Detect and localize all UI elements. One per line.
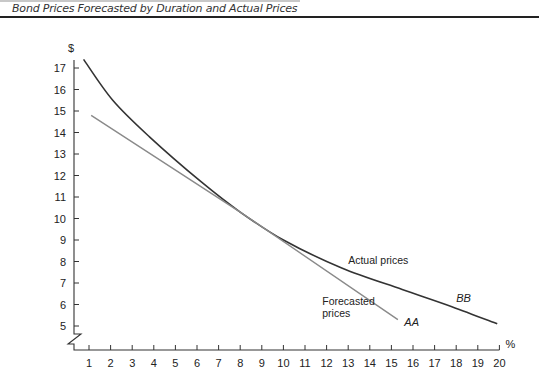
x-tick-label: 15	[385, 357, 397, 369]
y-tick-label: 8	[60, 256, 66, 268]
x-tick-label: 10	[277, 357, 289, 369]
x-tick-label: 17	[428, 357, 440, 369]
x-tick-label: 12	[320, 357, 332, 369]
y-tick-label: 6	[60, 299, 66, 311]
annotation-bb: BB	[456, 292, 471, 304]
x-tick-label: 18	[450, 357, 462, 369]
x-axis-ticks: 1234567891011121314151617181920	[86, 345, 506, 369]
x-tick-label: 19	[472, 357, 484, 369]
y-tick-label: 16	[54, 84, 66, 96]
y-tick-label: 10	[54, 213, 66, 225]
y-tick-label: 5	[60, 320, 66, 332]
x-tick-label: 14	[364, 357, 376, 369]
x-tick-label: 3	[129, 357, 135, 369]
annotations: Actual pricesForecastedpricesBBAA	[322, 254, 471, 328]
x-axis-label: %	[505, 338, 515, 350]
x-tick-label: 13	[342, 357, 354, 369]
y-tick-label: 13	[54, 148, 66, 160]
x-tick-label: 9	[259, 357, 265, 369]
y-tick-label: 9	[60, 234, 66, 246]
y-tick-label: 15	[54, 105, 66, 117]
x-tick-label: 7	[216, 357, 222, 369]
annotation-forecasted-prices: Forecastedprices	[322, 295, 375, 319]
series-aa	[91, 115, 398, 319]
series-bb	[84, 59, 498, 323]
annotation-actual-prices: Actual prices	[348, 254, 408, 266]
y-axis-ticks: 567891011121314151617	[54, 62, 79, 332]
x-tick-label: 11	[299, 357, 310, 369]
x-tick-label: 4	[151, 357, 157, 369]
y-tick-label: 7	[60, 277, 66, 289]
x-tick-label: 8	[237, 357, 243, 369]
y-tick-label: 14	[54, 127, 66, 139]
chart: $% 567891011121314151617 123456789101112…	[0, 0, 539, 375]
x-tick-label: 1	[86, 357, 92, 369]
x-tick-label: 20	[493, 357, 505, 369]
x-tick-label: 6	[194, 357, 200, 369]
annotation-aa: AA	[403, 316, 419, 328]
series-group	[84, 59, 498, 323]
y-tick-label: 11	[55, 191, 66, 203]
y-tick-label: 12	[54, 170, 66, 182]
axis-lines	[68, 60, 499, 350]
axes: $%	[68, 42, 515, 350]
x-tick-label: 5	[172, 357, 178, 369]
x-tick-label: 2	[108, 357, 114, 369]
x-tick-label: 16	[407, 357, 419, 369]
y-axis-label: $	[68, 42, 74, 54]
y-tick-label: 17	[54, 62, 66, 74]
